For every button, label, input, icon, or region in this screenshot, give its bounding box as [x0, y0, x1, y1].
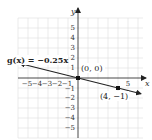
- y-tick: −3: [65, 104, 75, 112]
- y-tick: −1: [65, 85, 75, 93]
- y-tick: 3: [71, 44, 75, 52]
- point-origin-label: (0, 0): [81, 64, 103, 73]
- y-tick: −2: [65, 94, 75, 102]
- point-4-neg1: [116, 86, 120, 90]
- y-axis-label: y: [70, 7, 76, 16]
- x-tick: −3: [42, 80, 52, 88]
- function-graph: x y −5 −4 −3 −2 −1 5 5 4 3 2 1 −1 −2 −3 …: [0, 0, 152, 140]
- x-axis-label: x: [145, 79, 150, 88]
- y-tick: 2: [71, 54, 75, 62]
- x-tick: 5: [126, 80, 130, 88]
- y-tick: −5: [65, 124, 75, 132]
- point-4-neg1-label: (4, −1): [100, 92, 128, 101]
- y-tick: −4: [65, 114, 76, 122]
- point-origin: [76, 76, 80, 80]
- x-tick: −2: [52, 80, 62, 88]
- x-tick: −5: [22, 80, 32, 88]
- y-tick: 5: [71, 24, 75, 32]
- y-tick: 1: [71, 64, 75, 72]
- y-tick: 4: [71, 34, 76, 42]
- function-label: g(x) = −0.25x: [7, 55, 68, 65]
- function-line: [20, 64, 78, 79]
